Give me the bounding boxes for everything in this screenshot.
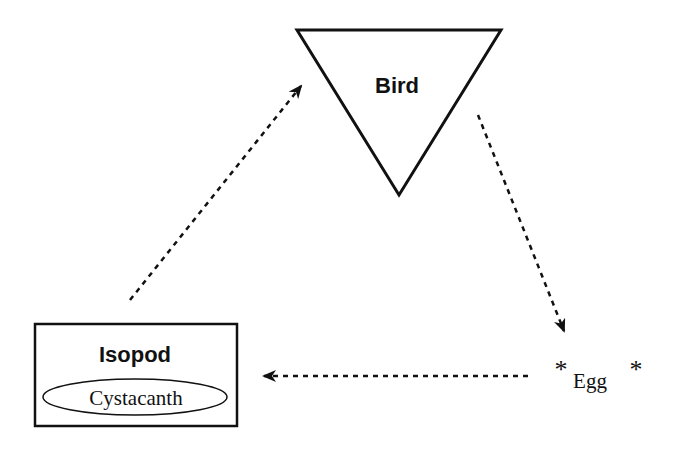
egg-star-left: * — [555, 355, 568, 384]
arrow-isopod-to-bird — [130, 86, 301, 300]
egg-node: * Egg * — [555, 355, 643, 393]
bird-node: Bird — [297, 30, 501, 195]
bird-label: Bird — [375, 73, 419, 98]
diagram-svg: Bird Isopod Cystacanth * Egg * — [0, 0, 676, 451]
isopod-label: Isopod — [99, 342, 171, 367]
cystacanth-label: Cystacanth — [89, 386, 183, 410]
egg-label: Egg — [573, 369, 607, 393]
bird-triangle — [297, 30, 501, 195]
life-cycle-diagram: Bird Isopod Cystacanth * Egg * — [0, 0, 676, 451]
egg-star-right: * — [630, 355, 643, 384]
arrow-bird-to-egg — [478, 115, 564, 331]
isopod-node: Isopod Cystacanth — [35, 324, 237, 426]
